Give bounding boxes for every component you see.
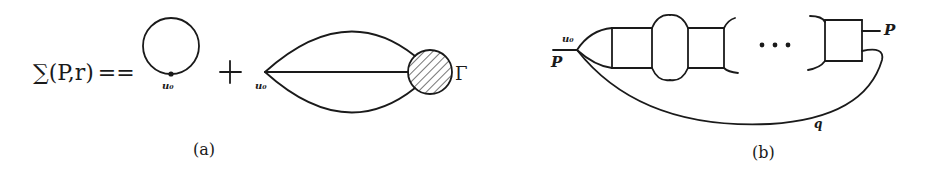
- outgoing-momentum-label: P: [884, 21, 895, 39]
- caption-a: (a): [193, 140, 215, 159]
- incoming-momentum-label: P: [551, 53, 562, 71]
- vertex-function-label: Γ: [455, 63, 468, 84]
- self-energy-lhs: ∑(P,r)==: [33, 60, 135, 85]
- loop-momentum-label: q: [814, 117, 822, 131]
- ladder-diagram: [553, 15, 882, 124]
- plus-sign: [220, 61, 241, 83]
- sigma-expression: ∑(P,r): [33, 60, 94, 85]
- sunset-vertex-label: u₀: [255, 80, 267, 91]
- sunset-diagram: [265, 32, 452, 113]
- caption-b: (b): [752, 143, 775, 162]
- tadpole-vertex-label: u₀: [162, 80, 174, 91]
- equals-sign: ==: [98, 60, 135, 85]
- feynman-diagrams: [0, 0, 932, 175]
- ellipsis-dots: [760, 43, 791, 48]
- tadpole-diagram: [143, 18, 199, 77]
- ladder-vertex-label: u₀: [562, 33, 574, 44]
